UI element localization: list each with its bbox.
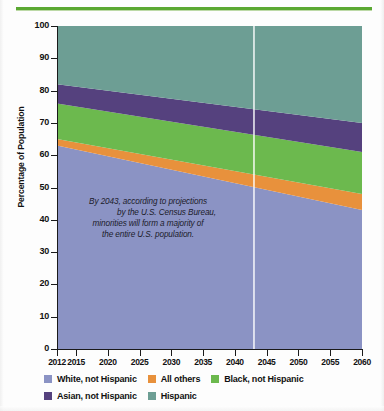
annotation-line-1: By 2043, according to projections bbox=[58, 196, 238, 207]
legend-item-black-not-hispanic[interactable]: Black, not Hispanic bbox=[211, 374, 303, 384]
annotation-line-2: by the U.S. Census Bureau, bbox=[58, 207, 238, 218]
y-axis-tick-label: 50 bbox=[27, 182, 49, 192]
plot-area bbox=[57, 26, 362, 349]
legend-item-all-others[interactable]: All others bbox=[148, 374, 201, 384]
x-axis-tick bbox=[330, 350, 331, 356]
x-axis-tick-label: 2060 bbox=[353, 357, 371, 367]
legend-swatch-icon bbox=[211, 375, 219, 383]
y-axis-tick-label: 20 bbox=[27, 278, 49, 288]
x-axis-tick bbox=[203, 350, 204, 356]
y-axis-tick-label: 70 bbox=[27, 117, 49, 127]
y-axis-tick-label: 100 bbox=[27, 20, 49, 30]
x-axis-tick bbox=[235, 350, 236, 356]
y-axis-tick-label: 40 bbox=[27, 214, 49, 224]
page-bottom-edge bbox=[0, 406, 384, 411]
x-axis-tick bbox=[76, 350, 77, 356]
x-axis-tick bbox=[57, 350, 58, 356]
x-axis-tick bbox=[171, 350, 172, 356]
y-axis-tick-label: 30 bbox=[27, 246, 49, 256]
legend-label: Asian, not Hispanic bbox=[57, 391, 137, 401]
x-axis-tick bbox=[298, 350, 299, 356]
legend-item-hispanic[interactable]: Hispanic bbox=[148, 391, 197, 401]
x-axis-tick bbox=[362, 350, 363, 356]
x-axis-tick-label: 2050 bbox=[290, 357, 308, 367]
legend-swatch-icon bbox=[148, 392, 156, 400]
x-axis-tick-label: 2040 bbox=[226, 357, 244, 367]
legend-swatch-icon bbox=[44, 375, 52, 383]
legend-row: White, not HispanicAll othersBlack, not … bbox=[44, 370, 374, 387]
y-axis-tick-label: 80 bbox=[27, 85, 49, 95]
legend-item-asian-not-hispanic[interactable]: Asian, not Hispanic bbox=[44, 391, 137, 401]
legend-label: All others bbox=[161, 374, 201, 384]
x-axis-tick bbox=[140, 350, 141, 356]
y-axis-tick bbox=[51, 155, 57, 156]
y-axis-tick bbox=[51, 252, 57, 253]
y-axis-tick bbox=[51, 317, 57, 318]
chart-annotation: By 2043, according to projectionsby the … bbox=[58, 196, 238, 240]
annotation-line-3: minorities will form a majority of bbox=[58, 218, 238, 229]
y-axis-tick bbox=[51, 188, 57, 189]
legend-label: Black, not Hispanic bbox=[224, 374, 303, 384]
y-axis-tick-label: 60 bbox=[27, 149, 49, 159]
chart-legend: White, not HispanicAll othersBlack, not … bbox=[44, 370, 374, 404]
x-axis-tick-label: 2035 bbox=[194, 357, 212, 367]
stacked-area-svg bbox=[57, 26, 362, 349]
chart-page: Percentage of Population 010203040506070… bbox=[0, 0, 384, 411]
y-axis-tick-label: 10 bbox=[27, 311, 49, 321]
x-axis-tick-label: 2015 bbox=[67, 357, 85, 367]
top-divider-rule bbox=[16, 7, 372, 10]
x-axis-tick-label: 2030 bbox=[163, 357, 181, 367]
legend-row: Asian, not HispanicHispanic bbox=[44, 387, 374, 404]
x-axis-tick-label: 2045 bbox=[258, 357, 276, 367]
y-axis-tick bbox=[51, 220, 57, 221]
y-axis-tick bbox=[51, 58, 57, 59]
y-axis-labels: 0102030405060708090100 bbox=[21, 0, 49, 411]
x-axis-tick-label: 2012 bbox=[48, 357, 66, 367]
y-axis-tick bbox=[51, 26, 57, 27]
annotation-line-4: the entire U.S. population. bbox=[58, 229, 238, 240]
y-axis-tick bbox=[51, 123, 57, 124]
y-axis-tick bbox=[51, 91, 57, 92]
y-axis-tick-label: 0 bbox=[27, 343, 49, 353]
x-axis-tick-label: 2055 bbox=[321, 357, 339, 367]
legend-swatch-icon bbox=[148, 375, 156, 383]
x-axis-tick bbox=[108, 350, 109, 356]
x-axis-line bbox=[57, 349, 363, 350]
x-axis-tick bbox=[267, 350, 268, 356]
page-right-edge bbox=[380, 0, 384, 411]
page-left-edge bbox=[0, 0, 4, 411]
legend-item-white-not-hispanic[interactable]: White, not Hispanic bbox=[44, 374, 137, 384]
y-axis-line bbox=[57, 26, 58, 350]
legend-swatch-icon bbox=[44, 392, 52, 400]
x-axis-tick-label: 2025 bbox=[131, 357, 149, 367]
legend-label: Hispanic bbox=[161, 391, 197, 401]
y-axis-tick bbox=[51, 284, 57, 285]
legend-label: White, not Hispanic bbox=[57, 374, 137, 384]
y-axis-tick-label: 90 bbox=[27, 52, 49, 62]
x-axis-tick-label: 2020 bbox=[99, 357, 117, 367]
